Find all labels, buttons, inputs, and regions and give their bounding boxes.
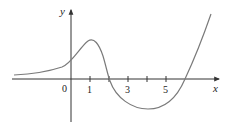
tick-label-1: 1 — [87, 84, 92, 95]
function-curve — [14, 14, 211, 109]
origin-label: 0 — [62, 83, 67, 94]
tick-label-3: 3 — [125, 84, 130, 95]
tick-label-5: 5 — [163, 84, 168, 95]
y-axis-label: y — [59, 5, 65, 17]
x-axis-label: x — [212, 82, 218, 94]
function-graph: y x 0 1 3 5 — [0, 0, 227, 129]
